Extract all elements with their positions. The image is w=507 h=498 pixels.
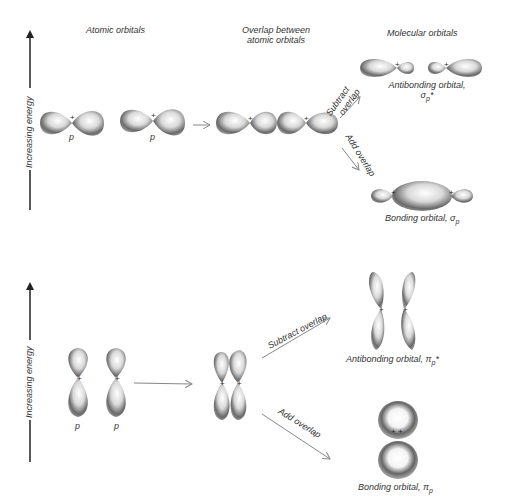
top-antibonding-orbital: + + [360,59,482,77]
header-overlap-line2: atomic orbitals [236,35,316,45]
bottom-atomic-label-2: p [114,421,119,431]
top-antibonding-symbol: σp* [372,90,482,103]
svg-text:+: + [449,188,454,197]
header-molecular-orbitals: Molecular orbitals [387,28,458,38]
top-bonding-label: Bonding orbital, σp [385,213,459,226]
top-antibonding-label: Antibonding orbital, σp* [372,80,482,103]
bottom-overlap-arrow [134,383,192,384]
svg-text:+: + [395,60,400,69]
svg-text:+: + [70,113,75,122]
header-overlap: Overlap between atomic orbitals [236,25,316,46]
bottom-bonding-orbital: + + [378,401,418,479]
bottom-bonding-label: Bonding orbital, πp [358,482,433,495]
bottom-antibonding-label: Antibonding orbital, πp* [346,354,439,367]
svg-text:+ +: + + [391,427,403,436]
top-atomic-label-1: p [69,132,74,142]
top-axis-label: Increasing energy [24,96,34,168]
top-bonding-orbital: + + [371,181,473,211]
top-antibonding-text: Antibonding orbital, [372,80,482,90]
svg-text:+: + [237,379,242,388]
svg-text:+: + [151,111,156,120]
header-atomic-orbitals: Atomic orbitals [86,25,145,35]
bottom-axis-label: Increasing energy [24,346,34,418]
svg-text:+: + [115,374,120,383]
svg-text:+: + [391,188,396,197]
top-overlap-orbitals: + + [216,112,338,135]
svg-text:+: + [444,60,449,69]
bottom-atomic-label-1: p [75,421,80,431]
svg-text:+: + [304,114,309,123]
bottom-atomic-orbital-1: + [68,348,88,417]
svg-text:+: + [220,379,225,388]
header-overlap-line1: Overlap between [236,25,316,35]
bottom-antibonding-orbital: + + [369,272,415,350]
top-atomic-label-2: p [150,132,155,142]
bottom-atomic-orbital-2: + [106,348,126,417]
svg-text:+: + [77,374,82,383]
svg-text:+: + [403,305,408,314]
svg-text:+: + [379,305,384,314]
bottom-overlap-orbitals: + + [214,350,247,420]
svg-text:+: + [248,114,253,123]
